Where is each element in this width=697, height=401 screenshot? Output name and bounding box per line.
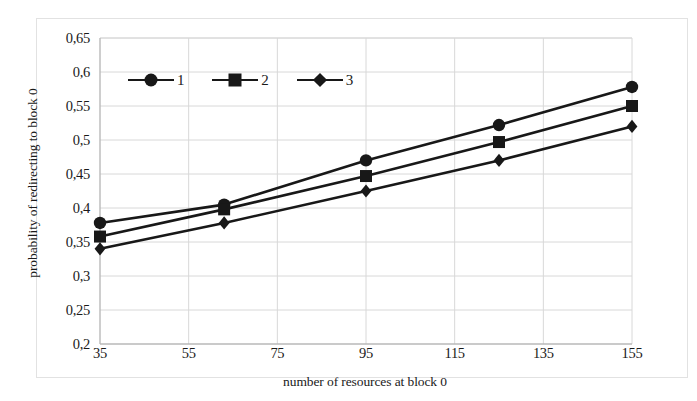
x-axis-title: number of resources at block 0 [95,374,635,390]
legend-item-3: 3 [297,71,353,89]
data-point-2-63 [218,203,230,215]
y-tick-label: 0,3 [44,269,90,283]
y-tick-label: 0,45 [44,167,90,181]
data-point-2-125 [493,136,505,148]
data-point-3-125 [494,154,505,167]
data-point-3-155 [627,120,638,133]
y-tick-label: 0,25 [44,303,90,317]
y-tick-label: 0,35 [44,235,90,249]
x-tick-label: 135 [513,346,573,360]
y-tick-label: 0,5 [44,133,90,147]
y-tick-label: 0,6 [44,65,90,79]
x-tick-label: 75 [247,346,307,360]
data-point-1-155 [626,81,638,93]
data-point-1-95 [360,154,372,166]
data-point-1-125 [493,119,505,131]
legend-label: 1 [177,73,184,88]
data-point-2-35 [94,231,106,243]
data-point-3-35 [95,242,106,255]
y-tick-label: 0,65 [44,31,90,45]
y-tick-label: 0,55 [44,99,90,113]
y-axis-title: probability of redirecting to block 0 [22,18,44,348]
legend-label: 3 [346,73,353,88]
x-tick-label: 155 [602,346,662,360]
x-tick-label: 55 [159,346,219,360]
legend-item-1: 1 [128,71,184,89]
line-chart: 0,20,250,30,350,40,450,50,550,60,65 3555… [0,0,697,401]
chart-legend: 123 [128,68,353,92]
legend-marker-circle-icon [128,71,174,89]
x-tick-label: 35 [70,346,130,360]
x-tick-label: 95 [336,346,396,360]
legend-label: 2 [261,73,268,88]
legend-marker-diamond-icon [297,71,343,89]
y-tick-label: 0,4 [44,201,90,215]
x-tick-label: 115 [425,346,485,360]
data-point-2-95 [360,170,372,182]
data-point-3-63 [219,216,230,229]
plot-area [0,0,697,401]
legend-item-2: 2 [212,71,268,89]
data-point-1-35 [94,217,106,229]
legend-marker-square-icon [212,71,258,89]
y-axis-tick-labels: 0,20,250,30,350,40,450,50,550,60,65 [44,0,90,401]
data-point-3-95 [361,184,372,197]
data-point-2-155 [626,100,638,112]
